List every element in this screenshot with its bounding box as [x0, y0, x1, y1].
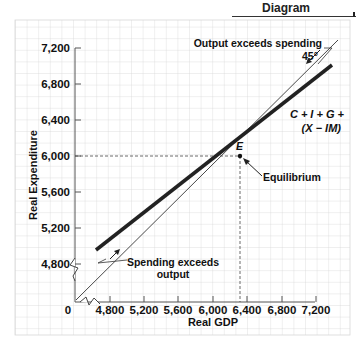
y-tick-label: 6,000	[41, 150, 70, 162]
x-tick-label: 6,400	[233, 304, 262, 316]
income-expenditure-diagram: 7,200 6,800 6,400 6,000 5,600 5,200 4,80…	[0, 0, 363, 349]
y-axis-title: Real Expenditure	[27, 130, 39, 220]
x-tick-label: 5,200	[130, 304, 159, 316]
y-tick-label: 5,600	[41, 186, 70, 198]
spending-exceeds-output-label-2: output	[157, 268, 190, 280]
equilibrium-point-label: E	[236, 140, 244, 152]
x-tick-label: 5,600	[164, 304, 193, 316]
ae-line-label-1: C + I + G +	[290, 108, 345, 120]
spending-exceeds-output-label-1: Spending exceeds	[127, 256, 219, 268]
x-axis-title: Real GDP	[188, 316, 238, 328]
origin-label: 0	[65, 304, 71, 316]
y-tick-label: 6,800	[41, 78, 70, 90]
x-tick-label: 6,000	[199, 304, 228, 316]
equilibrium-point	[238, 154, 242, 158]
equilibrium-label: Equilibrium	[263, 171, 321, 183]
x-tick-label: 4,800	[96, 304, 125, 316]
angle-label: 45°	[302, 50, 318, 62]
x-tick-label: 7,200	[302, 304, 331, 316]
output-exceeds-spending-label: Output exceeds spending	[194, 37, 322, 49]
x-tick-label: 6,800	[268, 304, 297, 316]
y-tick-label: 5,200	[41, 222, 70, 234]
y-tick-label: 6,400	[41, 114, 70, 126]
y-tick-label: 7,200	[41, 42, 70, 54]
y-tick-label: 4,800	[41, 258, 70, 270]
ae-line-label-2: (X − IM)	[302, 122, 342, 134]
